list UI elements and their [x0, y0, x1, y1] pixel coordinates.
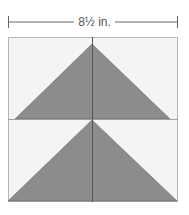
quilt-block-diagram	[0, 0, 189, 215]
dimension-label: 8½ in.	[74, 14, 115, 30]
